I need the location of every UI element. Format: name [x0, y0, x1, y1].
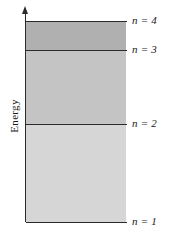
energy-axis-label: Energy [8, 86, 20, 146]
energy-axis-line [25, 12, 26, 222]
energy-level-label-n4: n = 4 [132, 14, 157, 26]
energy-level-line-n3 [26, 50, 127, 51]
energy-band-n1-to-n2 [26, 124, 126, 222]
up-arrow-icon [22, 6, 28, 14]
energy-level-line-n4 [26, 21, 127, 22]
energy-level-diagram: n = 4 n = 3 n = 2 n = 1 Energy [0, 0, 172, 236]
energy-band-n2-to-n3 [26, 50, 126, 124]
energy-level-label-n1: n = 1 [132, 215, 157, 227]
energy-level-line-n1 [26, 222, 127, 223]
energy-level-line-n2 [26, 124, 127, 125]
energy-band-n3-to-n4 [26, 21, 126, 50]
energy-level-label-n3: n = 3 [132, 43, 157, 55]
energy-level-label-n2: n = 2 [132, 117, 157, 129]
